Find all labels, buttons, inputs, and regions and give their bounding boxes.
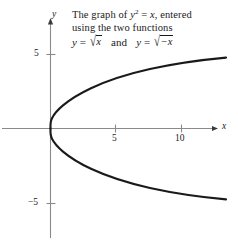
caption: The graph of y2 = x, entered using the t… (72, 9, 236, 50)
formula-conjunction: and (111, 36, 127, 48)
curve-upper-branch (50, 58, 226, 129)
y-tick-label-5: 5 (34, 48, 39, 58)
parabola-figure: x y 5 10 5 −5 The graph of y2 = x, enter… (0, 0, 238, 242)
caption-line-1: The graph of y2 = x, entered (72, 9, 236, 22)
x-axis-label: x (222, 121, 226, 131)
formula1-radical: √x (89, 36, 102, 50)
caption-text-part3: , entered (155, 9, 192, 20)
radical-sign-icon: √ (154, 34, 160, 48)
y-axis-label: y (52, 9, 56, 19)
x-tick-label-5: 5 (112, 133, 117, 143)
caption-text-part1: The graph of (72, 9, 130, 20)
y-tick-label-minus-5: −5 (28, 197, 38, 207)
formula1-equals: = (77, 36, 89, 48)
formula2-radical: √−x (153, 36, 173, 50)
formula2-radicand: −x (160, 35, 173, 49)
curve-lower-branch (50, 129, 226, 200)
caption-equals: = (139, 9, 150, 20)
caption-formula-line: y = √xandy = √−x (72, 36, 236, 50)
formula2-equals: = (141, 36, 153, 48)
x-tick-label-10: 10 (175, 133, 185, 143)
formula1-radicand: x (96, 35, 102, 49)
